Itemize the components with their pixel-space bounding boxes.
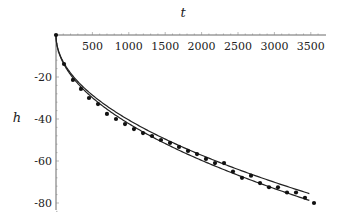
data-point: [294, 190, 298, 194]
data-points: [54, 33, 316, 205]
data-point: [105, 112, 109, 116]
x-tick-label: 3000: [260, 40, 288, 53]
model-curves: [56, 35, 309, 200]
data-point: [204, 157, 208, 161]
data-point: [186, 149, 190, 153]
data-point: [195, 152, 199, 156]
data-point: [231, 169, 235, 173]
y-axis-label: h: [13, 110, 21, 125]
x-tick-label: 500: [82, 40, 103, 53]
data-point: [87, 96, 91, 100]
data-point: [96, 102, 100, 106]
y-tick-label: -20: [34, 71, 52, 84]
data-point: [267, 185, 271, 189]
data-point: [62, 62, 66, 66]
data-point: [168, 141, 172, 145]
data-point: [258, 181, 262, 185]
model-lower-curve: [56, 35, 309, 200]
data-point: [285, 190, 289, 194]
x-tick-label: 2500: [224, 40, 252, 53]
data-point: [132, 127, 136, 131]
y-tick-label: -60: [34, 155, 52, 168]
data-point: [79, 87, 83, 91]
data-point: [276, 185, 280, 189]
data-point: [177, 145, 181, 149]
x-tick-label: 1000: [115, 40, 143, 53]
chart: 500100015002000250030003500-20-40-60-80 …: [0, 0, 337, 218]
x-axis-label: t: [180, 5, 186, 20]
data-point: [123, 122, 127, 126]
y-tick-label: -80: [34, 197, 52, 210]
model-upper-curve: [56, 35, 309, 194]
data-point: [114, 117, 118, 121]
x-tick-label: 2000: [188, 40, 216, 53]
data-point: [312, 201, 316, 205]
data-point: [240, 176, 244, 180]
data-point: [249, 174, 253, 178]
data-point: [150, 134, 154, 138]
data-point: [141, 131, 145, 135]
data-point: [303, 196, 307, 200]
data-point: [159, 138, 163, 142]
data-point: [213, 161, 217, 165]
data-point: [54, 33, 58, 37]
y-tick-label: -40: [34, 113, 52, 126]
data-point: [222, 161, 226, 165]
x-tick-label: 1500: [151, 40, 179, 53]
x-tick-label: 3500: [297, 40, 325, 53]
data-point: [71, 78, 75, 82]
